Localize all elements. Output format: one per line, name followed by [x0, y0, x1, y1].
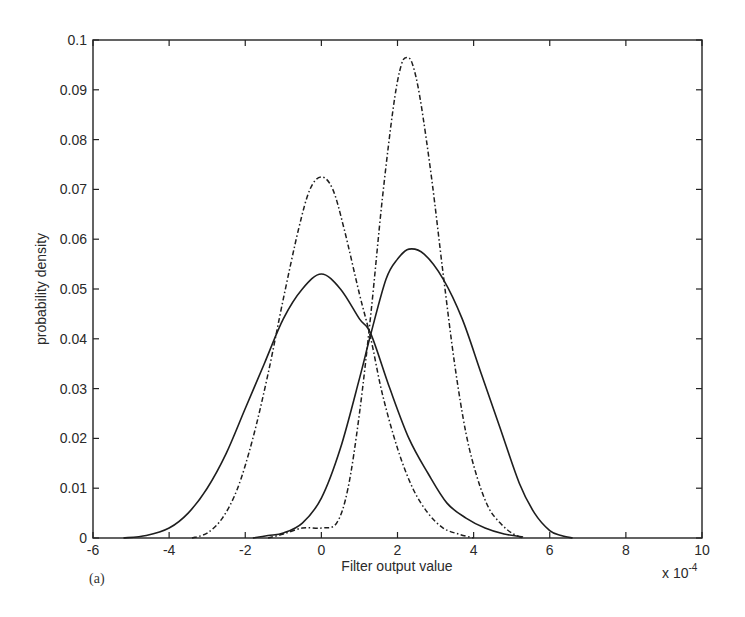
panel-label: (a)	[89, 571, 105, 587]
plot-area: -6-4-20246810 00.010.020.030.040.050.060…	[60, 32, 710, 558]
curve-solid-left	[123, 274, 523, 538]
x-multiplier-label: x 10-4	[662, 562, 698, 581]
y-tick-label: 0.06	[60, 231, 87, 247]
density-curves	[123, 57, 572, 538]
y-tick-label: 0.01	[60, 480, 87, 496]
x-tick-label: 8	[622, 542, 630, 558]
x-axis-ticks: -6-4-20246810	[87, 40, 710, 558]
x-multiplier-exponent: -4	[688, 562, 697, 573]
curve-solid-right	[253, 249, 573, 538]
x-tick-label: 10	[694, 542, 710, 558]
x-tick-label: 2	[394, 542, 402, 558]
x-tick-label: 6	[546, 542, 554, 558]
x-axis-title: Filter output value	[341, 558, 452, 574]
y-tick-label: 0	[79, 530, 87, 546]
y-tick-label: 0.02	[60, 430, 87, 446]
y-tick-label: 0.1	[68, 32, 88, 48]
x-tick-label: 4	[470, 542, 478, 558]
curve-dashdot-left	[192, 177, 474, 538]
y-tick-label: 0.09	[60, 82, 87, 98]
x-tick-label: -2	[239, 542, 252, 558]
y-tick-label: 0.05	[60, 281, 87, 297]
y-axis-ticks: 00.010.020.030.040.050.060.070.080.090.1	[60, 32, 702, 546]
curve-dashdot-right	[268, 57, 523, 538]
y-tick-label: 0.03	[60, 381, 87, 397]
y-tick-label: 0.04	[60, 331, 87, 347]
y-axis-title: probability density	[33, 233, 49, 345]
y-tick-label: 0.08	[60, 132, 87, 148]
x-tick-label: -4	[163, 542, 176, 558]
x-tick-label: -6	[87, 542, 100, 558]
plot-frame	[93, 40, 702, 538]
x-multiplier-base: x 10	[662, 565, 689, 581]
probability-density-chart: -6-4-20246810 00.010.020.030.040.050.060…	[0, 0, 745, 617]
x-tick-label: 0	[317, 542, 325, 558]
y-tick-label: 0.07	[60, 181, 87, 197]
